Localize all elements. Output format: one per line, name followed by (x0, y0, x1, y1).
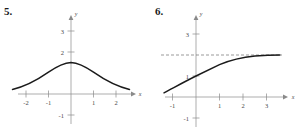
figure-6-y-tick-label--1: -1 (184, 115, 189, 122)
figure-6-svg: -1 1 2 3 -1 1 3 x y (151, 0, 303, 139)
figure-5-plot: -2 -1 1 2 -1 2 3 x y (0, 0, 151, 139)
figure-5-x-tick-label-2: 2 (114, 99, 117, 106)
figure-5-y-axis-label: y (74, 11, 78, 17)
figure-5-y-axis-arrow (69, 15, 74, 20)
figure-6-x-tick-label-2: 2 (241, 102, 244, 109)
figure-5-y-tick-label-2: 2 (61, 49, 64, 56)
figure-6-curve (164, 55, 280, 93)
figure-5-y-tick-label--1: -1 (59, 112, 64, 119)
figure-5-y-tick-label-3: 3 (61, 28, 64, 35)
figure-6-x-tick-label--1: -1 (170, 102, 175, 109)
figure-6-plot: -1 1 2 3 -1 1 3 x y (151, 0, 303, 139)
figure-6-x-tick-label-3: 3 (265, 102, 268, 109)
figure-6: 6. -1 1 2 (151, 0, 303, 139)
figure-pair-page: 5. -2 -1 1 (0, 0, 303, 139)
figure-5-x-tick-label--2: -2 (23, 99, 28, 106)
figure-5-x-axis-label: x (138, 91, 142, 97)
figure-6-y-tick-label-1: 1 (186, 73, 189, 80)
figure-5-svg: -2 -1 1 2 -1 2 3 x y (0, 0, 151, 139)
figure-6-x-axis-arrow (283, 95, 288, 100)
figure-6-y-tick-label-3: 3 (186, 31, 189, 38)
figure-6-y-axis-label: y (199, 11, 203, 17)
figure-5-x-axis-arrow (131, 92, 136, 97)
figure-6-y-axis-arrow (194, 15, 199, 20)
figure-5: 5. -2 -1 1 (0, 0, 151, 139)
figure-6-x-tick-label-1: 1 (218, 102, 221, 109)
figure-5-x-tick-label-1: 1 (92, 99, 95, 106)
figure-5-x-tick-label--1: -1 (46, 99, 51, 106)
figure-6-x-axis-label: x (291, 94, 295, 100)
